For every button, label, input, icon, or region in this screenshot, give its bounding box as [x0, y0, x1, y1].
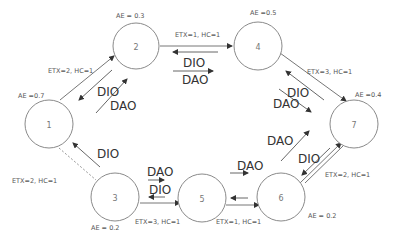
- etx-label-2-4: ETX=1, HC=1: [175, 31, 220, 39]
- node-1-label: 1: [46, 121, 51, 130]
- etx-label-4-7: ETX=3, HC=1: [307, 68, 352, 76]
- etx-label-1-3: ETX=2, HC=1: [12, 177, 57, 185]
- node-4-label: 4: [255, 43, 260, 52]
- dio-label-2-4: DIO: [183, 56, 205, 70]
- node-1: 1: [25, 100, 73, 148]
- dio-label-1-2: DIO: [97, 85, 119, 99]
- node-5: 5: [178, 174, 226, 222]
- node-6-label: 6: [278, 194, 283, 203]
- ae-label-node-7: AE =0.4: [355, 91, 381, 99]
- dao-label-4-7: DAO: [273, 97, 299, 111]
- dao-label-2-4: DAO: [182, 73, 208, 87]
- dio-label-6-7: DIO: [298, 152, 320, 166]
- etx-label-6-7: ETX=2, HC=1: [325, 171, 370, 179]
- node-2: 2: [113, 23, 159, 69]
- node-2-label: 2: [133, 43, 138, 52]
- ae-label-node-2: AE = 0.3: [116, 12, 144, 20]
- link-1-3: [59, 148, 96, 180]
- rpl-topology-diagram: 1 2 3 4 5 6 7 AE =0.7 AE = 0.3 AE = 0.2 …: [0, 0, 395, 241]
- etx-label-3-5: ETX=3, HC=1: [135, 218, 180, 226]
- ae-label-node-6: AE = 0.2: [308, 212, 336, 220]
- dio-label-3-5: DIO: [149, 183, 171, 197]
- etx-label-1-2: ETX=2, HC=1: [48, 67, 93, 75]
- dao-label-3-5: DAO: [147, 165, 173, 179]
- dao-label-5-6: DAO: [237, 159, 263, 173]
- node-7: 7: [330, 100, 378, 148]
- dio-label-3-1: DIO: [97, 147, 119, 161]
- ae-label-node-1: AE =0.7: [18, 92, 44, 100]
- dio-arrow-3-to-1: [73, 143, 100, 167]
- ae-label-node-3: AE = 0.2: [91, 224, 119, 232]
- ae-label-node-4: AE =0.5: [250, 9, 276, 17]
- node-5-label: 5: [199, 195, 204, 204]
- node-4: 4: [234, 22, 282, 70]
- node-3-label: 3: [112, 194, 117, 203]
- node-6: 6: [257, 173, 305, 221]
- dao-label-1-2: DAO: [110, 99, 136, 113]
- node-7-label: 7: [351, 121, 356, 130]
- dao-label-6-7: DAO: [267, 134, 293, 148]
- node-3: 3: [91, 173, 139, 221]
- etx-label-5-6: ETX=1, HC=1: [216, 218, 261, 226]
